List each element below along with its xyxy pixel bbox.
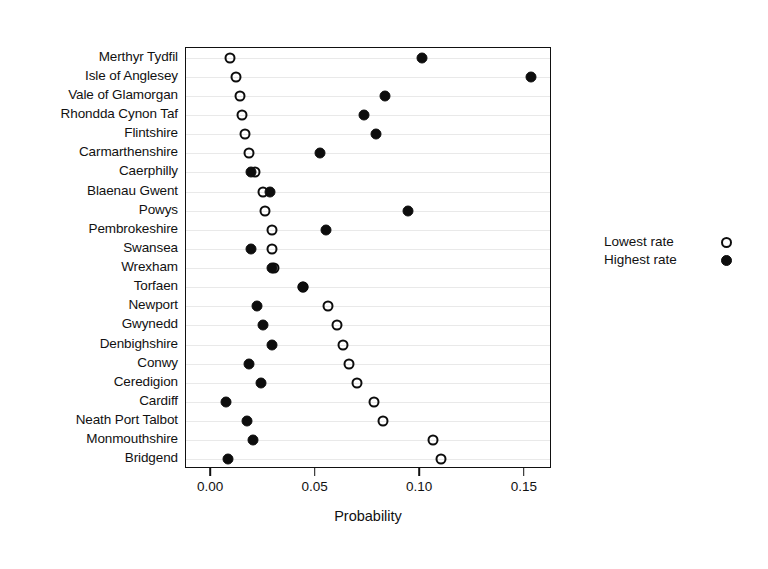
y-axis-label: Caerphilly <box>0 164 178 178</box>
data-point-highest <box>264 186 275 197</box>
data-point-highest <box>358 109 369 120</box>
y-axis-label: Carmarthenshire <box>0 145 178 159</box>
data-point-highest <box>241 416 252 427</box>
data-point-highest <box>314 148 325 159</box>
gridline <box>186 230 550 231</box>
data-point-lowest <box>377 416 388 427</box>
y-axis-label: Gwynedd <box>0 317 178 331</box>
data-point-lowest <box>260 205 271 216</box>
data-point-lowest <box>235 90 246 101</box>
y-axis-label: Ceredigion <box>0 375 178 389</box>
data-point-lowest <box>344 358 355 369</box>
data-point-lowest <box>331 320 342 331</box>
data-point-highest <box>379 90 390 101</box>
data-point-highest <box>243 358 254 369</box>
legend-entry: Lowest rate <box>604 233 754 251</box>
data-point-highest <box>321 224 332 235</box>
y-axis-label: Merthyr Tydfil <box>0 50 178 64</box>
dot-plot-chart: Merthyr TydfilIsle of AngleseyVale of Gl… <box>0 0 768 569</box>
x-axis-tick-label: 0.15 <box>511 479 537 495</box>
legend-label: Lowest rate <box>604 233 674 251</box>
data-point-lowest <box>369 397 380 408</box>
data-point-highest <box>256 377 267 388</box>
filled-circle-icon <box>721 255 732 266</box>
data-point-highest <box>252 301 263 312</box>
data-point-highest <box>245 167 256 178</box>
data-point-lowest <box>436 454 447 465</box>
y-axis-label: Powys <box>0 203 178 217</box>
plot-frame <box>185 47 551 468</box>
data-point-lowest <box>337 339 348 350</box>
plot-area <box>186 48 550 467</box>
y-axis-label: Cardiff <box>0 394 178 408</box>
gridline <box>186 325 550 326</box>
x-axis-title: Probability <box>185 508 551 524</box>
y-axis-label: Isle of Anglesey <box>0 69 178 83</box>
y-axis-label: Wrexham <box>0 260 178 274</box>
y-axis-label: Denbighshire <box>0 337 178 351</box>
data-point-highest <box>266 263 277 274</box>
gridline <box>186 364 550 365</box>
legend-entry: Highest rate <box>604 251 754 269</box>
x-axis: 0.000.050.100.15 <box>185 468 551 508</box>
x-axis-tick-label: 0.05 <box>302 479 328 495</box>
data-point-highest <box>371 129 382 140</box>
legend-label: Highest rate <box>604 251 677 269</box>
gridline <box>186 306 550 307</box>
y-axis-label: Flintshire <box>0 126 178 140</box>
y-axis-label: Torfaen <box>0 279 178 293</box>
x-axis-tick <box>314 468 316 476</box>
x-axis-tick <box>418 468 420 476</box>
y-axis-label: Monmouthshire <box>0 432 178 446</box>
chart-legend: Lowest rateHighest rate <box>604 233 754 277</box>
data-point-highest <box>245 243 256 254</box>
gridline <box>186 440 550 441</box>
y-axis-label: Swansea <box>0 241 178 255</box>
gridline <box>186 58 550 59</box>
y-axis-label: Bridgend <box>0 451 178 465</box>
y-axis-label: Newport <box>0 298 178 312</box>
data-point-highest <box>526 71 537 82</box>
data-point-lowest <box>237 109 248 120</box>
y-axis-label: Pembrokeshire <box>0 222 178 236</box>
gridline <box>186 383 550 384</box>
data-point-lowest <box>427 435 438 446</box>
data-point-highest <box>220 397 231 408</box>
data-point-highest <box>417 52 428 63</box>
gridline <box>186 268 550 269</box>
gridline <box>186 459 550 460</box>
data-point-lowest <box>266 224 277 235</box>
gridline <box>186 345 550 346</box>
gridline <box>186 249 550 250</box>
gridline <box>186 172 550 173</box>
data-point-lowest <box>243 148 254 159</box>
data-point-lowest <box>266 243 277 254</box>
data-point-highest <box>258 320 269 331</box>
gridline <box>186 211 550 212</box>
data-point-highest <box>247 435 258 446</box>
data-point-lowest <box>352 377 363 388</box>
data-point-highest <box>266 339 277 350</box>
x-axis-tick-label: 0.10 <box>406 479 432 495</box>
data-point-lowest <box>231 71 242 82</box>
gridline <box>186 192 550 193</box>
x-axis-tick <box>209 468 211 476</box>
data-point-lowest <box>323 301 334 312</box>
y-axis-label: Blaenau Gwent <box>0 184 178 198</box>
gridline <box>186 153 550 154</box>
data-point-lowest <box>224 52 235 63</box>
y-axis-category-labels: Merthyr TydfilIsle of AngleseyVale of Gl… <box>0 47 178 468</box>
y-axis-label: Rhondda Cynon Taf <box>0 107 178 121</box>
y-axis-label: Neath Port Talbot <box>0 413 178 427</box>
data-point-lowest <box>239 129 250 140</box>
x-axis-tick <box>523 468 525 476</box>
gridline <box>186 287 550 288</box>
data-point-highest <box>298 282 309 293</box>
data-point-highest <box>402 205 413 216</box>
open-circle-icon <box>721 237 732 248</box>
y-axis-label: Vale of Glamorgan <box>0 88 178 102</box>
data-point-highest <box>222 454 233 465</box>
y-axis-label: Conwy <box>0 356 178 370</box>
x-axis-tick-label: 0.00 <box>197 479 223 495</box>
